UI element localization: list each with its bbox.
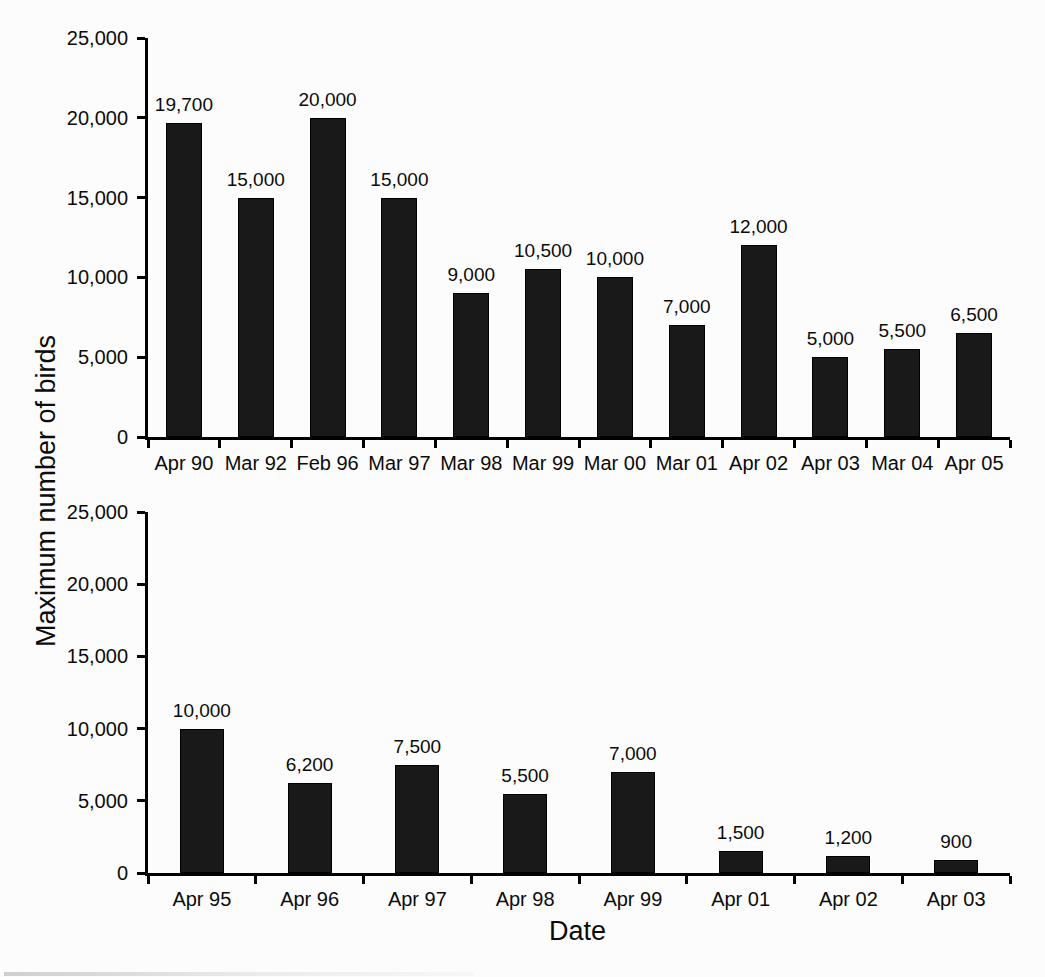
x-category-label: Apr 96 [280,887,339,911]
bar-value-label: 5,000 [807,328,855,350]
bar [310,118,346,437]
bar-value-label: 15,000 [227,169,285,191]
x-category-label: Apr 90 [154,451,213,475]
bar-value-label: 900 [940,831,972,853]
y-axis-tick [137,799,145,802]
bar-value-label: 10,000 [586,248,644,270]
bar [288,783,332,873]
x-axis-tick [578,876,581,884]
y-axis-tick [137,37,145,40]
x-category-label: Apr 97 [388,887,447,911]
bar [719,851,763,873]
x-category-label: Apr 98 [496,887,555,911]
bar-value-label: 20,000 [299,89,357,111]
x-axis-tick [721,440,724,448]
x-axis-tick [434,440,437,448]
y-axis-tick [137,655,145,658]
bar-value-label: 5,500 [501,765,549,787]
y-axis-tick [137,356,145,359]
x-category-label: Apr 99 [603,887,662,911]
x-axis-tick [793,440,796,448]
y-axis-tick [137,116,145,119]
bar [741,245,777,437]
y-axis-tick-label: 15,000 [30,185,128,211]
bar [381,198,417,437]
bar [934,860,978,873]
bar-value-label: 12,000 [730,216,788,238]
y-axis-tick-label: 25,000 [30,25,128,51]
bar-value-label: 6,200 [286,754,334,776]
y-axis-tick-label: 10,000 [30,264,128,290]
x-category-label: Apr 03 [927,887,986,911]
bar-chart-top: 05,00010,00015,00020,00025,00019,700Apr … [145,38,1010,440]
y-axis-tick [137,511,145,514]
y-axis-tick-label: 20,000 [30,105,128,131]
bar [669,325,705,437]
bar-value-label: 15,000 [370,169,428,191]
bar [503,794,547,873]
x-category-label: Feb 96 [296,451,358,475]
x-axis-tick [290,440,293,448]
x-category-label: Mar 99 [512,451,574,475]
y-axis-tick-label: 25,000 [30,499,128,525]
x-axis-title: Date [145,916,1010,947]
y-axis-tick [137,872,145,875]
bar-value-label: 19,700 [155,94,213,116]
bar [238,198,274,437]
x-category-label: Apr 01 [711,887,770,911]
bar-value-label: 6,500 [950,304,998,326]
y-axis-tick-label: 15,000 [30,643,128,669]
y-axis-tick [137,727,145,730]
bar-value-label: 5,500 [878,320,926,342]
x-axis-tick [793,876,796,884]
bar [453,293,489,437]
y-axis-tick-label: 0 [30,424,128,450]
x-axis-tick [1009,876,1012,884]
y-axis-tick-label: 20,000 [30,571,128,597]
x-axis-tick [865,440,868,448]
y-axis-tick [137,583,145,586]
bar-chart-bottom: 05,00010,00015,00020,00025,00010,000Apr … [145,512,1010,876]
y-axis-tick-label: 0 [30,860,128,886]
y-axis-tick-label: 5,000 [30,344,128,370]
bar [611,772,655,873]
x-axis-tick [685,876,688,884]
bar [597,277,633,437]
bar-value-label: 10,500 [514,240,572,262]
x-category-label: Mar 01 [656,451,718,475]
x-category-label: Apr 95 [172,887,231,911]
x-axis-tick [362,440,365,448]
y-axis-tick-label: 10,000 [30,716,128,742]
bar [525,269,561,437]
x-category-label: Apr 02 [819,887,878,911]
x-axis-tick [254,876,257,884]
bar [395,765,439,873]
bar-value-label: 7,000 [663,296,711,318]
bar [812,357,848,437]
y-axis-tick [137,276,145,279]
x-category-label: Apr 05 [945,451,1004,475]
x-axis-tick [506,440,509,448]
bar-value-label: 9,000 [447,264,495,286]
y-axis-title: Maximum number of birds [29,279,63,703]
bar [166,123,202,437]
x-axis-tick [901,876,904,884]
bar-value-label: 10,000 [173,700,231,722]
x-axis-tick [147,440,150,448]
x-axis-tick [362,876,365,884]
y-axis-tick [137,436,145,439]
bar [956,333,992,437]
x-category-label: Apr 03 [801,451,860,475]
scan-artifact [4,972,474,976]
bar [884,349,920,437]
x-category-label: Apr 02 [729,451,788,475]
x-category-label: Mar 97 [368,451,430,475]
x-category-label: Mar 00 [584,451,646,475]
x-axis-tick [147,876,150,884]
bar [826,856,870,873]
bar-value-label: 7,500 [394,736,442,758]
y-axis-tick-label: 5,000 [30,788,128,814]
x-category-label: Mar 04 [871,451,933,475]
bar [180,729,224,873]
x-category-label: Mar 92 [225,451,287,475]
